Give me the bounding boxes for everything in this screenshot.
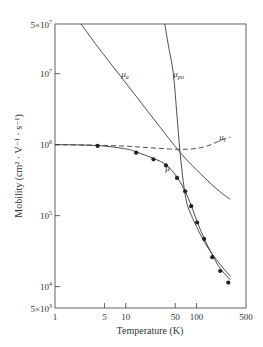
data-point	[134, 151, 138, 155]
series-line-total	[55, 145, 230, 280]
x-tick-label: 5	[102, 312, 107, 322]
series-label-po: μpo	[172, 69, 184, 80]
y-axis: 5×1031041051061075×107	[30, 19, 60, 314]
data-point	[96, 144, 100, 148]
series-label-a: μa	[120, 69, 129, 80]
y-tick-label: 106	[40, 139, 52, 150]
y-tick-label: 107	[40, 68, 52, 79]
x-tick-label: 50	[171, 312, 181, 322]
data-point	[183, 189, 187, 193]
data-point	[189, 204, 193, 208]
mobility-chart: 5×1031041051061075×107 151050100500 μaμp…	[0, 0, 263, 347]
series-label-total: μ	[164, 163, 170, 173]
y-tick-label: 104	[40, 281, 52, 292]
x-tick-label: 500	[239, 312, 253, 322]
data-point	[151, 157, 155, 161]
y-tick-label: 5×103	[30, 303, 52, 314]
x-tick-label: 10	[121, 312, 131, 322]
x-tick-label: 100	[190, 312, 204, 322]
data-markers	[96, 144, 231, 285]
series-layer	[55, 24, 230, 280]
series-label-i: μi	[218, 132, 226, 143]
y-axis-label: Mobility (cm² · V⁻¹ · s⁻¹)	[13, 114, 25, 218]
y-tick-label: 105	[40, 210, 52, 221]
plot-frame	[55, 24, 246, 308]
series-line-i	[55, 137, 230, 149]
data-point	[218, 269, 222, 273]
x-axis: 151050100500	[53, 303, 254, 322]
data-point	[202, 237, 206, 241]
series-labels: μaμpoμiμ	[120, 69, 226, 174]
data-point	[226, 280, 230, 284]
data-point	[195, 220, 199, 224]
data-point	[175, 176, 179, 180]
chart-svg: 5×1031041051061075×107 151050100500 μaμp…	[0, 0, 263, 347]
x-tick-label: 1	[53, 312, 58, 322]
series-line-a	[81, 24, 230, 199]
data-point	[210, 255, 214, 259]
x-axis-label: Temperature (K)	[117, 325, 184, 337]
plot-border	[55, 24, 246, 308]
series-line-po	[165, 24, 231, 276]
y-tick-label: 5×107	[30, 19, 52, 30]
